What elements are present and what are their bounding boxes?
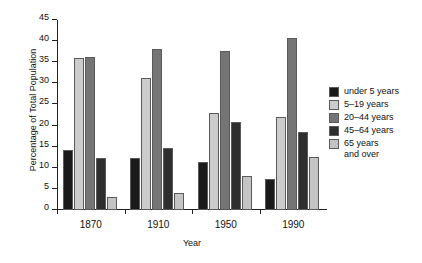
bar	[96, 158, 106, 210]
x-axis-tick-label: 1910	[130, 219, 186, 230]
legend-label: 5–19 years	[344, 99, 389, 110]
x-axis-tick-label: 1870	[63, 219, 119, 230]
bar	[242, 176, 252, 210]
legend-label: 20–44 years	[344, 112, 394, 123]
bar	[74, 58, 84, 210]
plot-area: 051015202530354045 1870191019501990	[57, 20, 327, 210]
bar	[198, 162, 208, 210]
y-axis-tick-label: 35	[39, 54, 49, 64]
y-axis-tick: 40	[52, 40, 57, 41]
y-axis-line	[57, 20, 58, 210]
y-axis-tick-label: 30	[39, 75, 49, 85]
y-axis-tick: 45	[52, 19, 57, 20]
y-axis-tick: 25	[52, 103, 57, 104]
y-axis-tick-label: 45	[39, 12, 49, 22]
legend-label: 65 years and over	[344, 138, 379, 160]
bar	[130, 158, 140, 210]
y-axis-tick-label: 15	[39, 139, 49, 149]
legend-swatch	[329, 113, 339, 123]
y-axis-tick: 30	[52, 82, 57, 83]
legend: under 5 years5–19 years20–44 years45–64 …	[329, 86, 421, 162]
y-axis-tick: 35	[52, 61, 57, 62]
bar	[174, 193, 184, 210]
legend-item[interactable]: 45–64 years	[329, 125, 421, 136]
x-axis-tick	[192, 210, 193, 214]
legend-swatch	[329, 87, 339, 97]
bar-group: 1950	[198, 20, 254, 210]
bar-group: 1990	[265, 20, 321, 210]
y-axis-tick: 15	[52, 146, 57, 147]
bar	[152, 49, 162, 210]
y-axis-tick-label: 10	[39, 160, 49, 170]
y-axis-tick: 5	[52, 188, 57, 189]
bar	[220, 51, 230, 210]
bar-chart-figure: Percentage of Total Population 051015202…	[0, 0, 422, 263]
y-axis-label: Percentage of Total Population	[28, 10, 38, 210]
bar	[231, 122, 241, 210]
x-axis-label: Year	[57, 238, 327, 248]
x-axis-tick	[57, 210, 58, 214]
legend-item[interactable]: 5–19 years	[329, 99, 421, 110]
bar	[141, 78, 151, 210]
x-axis-tick	[260, 210, 261, 214]
y-axis-tick-label: 25	[39, 96, 49, 106]
y-axis-tick-label: 0	[44, 202, 49, 212]
bar	[85, 57, 95, 210]
y-axis-tick-label: 40	[39, 33, 49, 43]
bar	[309, 157, 319, 210]
legend-swatch	[329, 100, 339, 110]
x-axis-tick-label: 1990	[265, 219, 321, 230]
bar	[265, 179, 275, 210]
legend-swatch	[329, 139, 339, 149]
legend-swatch	[329, 126, 339, 136]
bar-group: 1910	[130, 20, 186, 210]
bar	[276, 117, 286, 210]
y-axis-tick-label: 20	[39, 118, 49, 128]
legend-label: 45–64 years	[344, 125, 394, 136]
legend-item[interactable]: 65 years and over	[329, 138, 421, 160]
legend-item[interactable]: 20–44 years	[329, 112, 421, 123]
bar	[287, 38, 297, 210]
bar	[298, 132, 308, 210]
legend-label: under 5 years	[344, 86, 399, 97]
bar	[163, 148, 173, 210]
bar-group: 1870	[63, 20, 119, 210]
legend-item[interactable]: under 5 years	[329, 86, 421, 97]
y-axis-tick: 20	[52, 125, 57, 126]
bar	[209, 113, 219, 210]
bar	[107, 197, 117, 210]
y-axis-tick-label: 5	[44, 181, 49, 191]
x-axis-tick	[125, 210, 126, 214]
y-axis-tick: 10	[52, 167, 57, 168]
x-axis-tick-label: 1950	[198, 219, 254, 230]
bar	[63, 150, 73, 210]
